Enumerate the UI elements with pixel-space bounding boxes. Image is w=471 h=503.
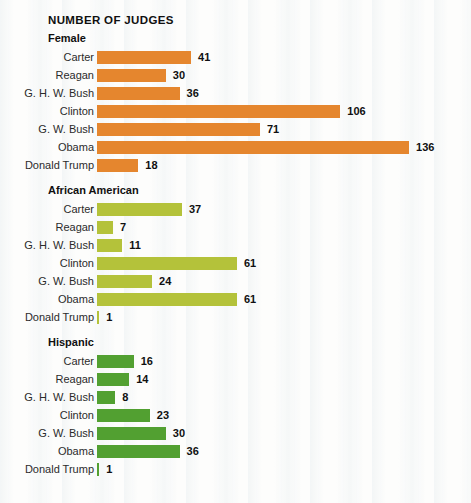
bar xyxy=(97,463,99,476)
bar-value-label: 71 xyxy=(267,123,279,136)
bar-row: Clinton23 xyxy=(0,406,471,424)
bar xyxy=(97,373,129,386)
bar-row: Clinton106 xyxy=(0,102,471,120)
bar-value-label: 61 xyxy=(244,293,256,306)
bar-area: 23 xyxy=(97,409,471,422)
bar-row: Reagan7 xyxy=(0,218,471,236)
bar-row-label: Clinton xyxy=(0,254,97,272)
bar-area: 18 xyxy=(97,159,471,172)
bar xyxy=(97,257,237,270)
bar-value-label: 30 xyxy=(173,427,185,440)
bar-row-label: G. H. W. Bush xyxy=(0,236,97,254)
bar-rows: Carter41Reagan30G. H. W. Bush36Clinton10… xyxy=(0,48,471,174)
bar-value-label: 16 xyxy=(141,355,153,368)
bar-row-label: G. H. W. Bush xyxy=(0,388,97,406)
bar-row-label: Carter xyxy=(0,352,97,370)
bar-row-label: Clinton xyxy=(0,406,97,424)
bar-area: 14 xyxy=(97,373,471,386)
bar-row: G. W. Bush24 xyxy=(0,272,471,290)
bar-row-label: Reagan xyxy=(0,218,97,236)
bar-value-label: 37 xyxy=(189,203,201,216)
bar xyxy=(97,159,138,172)
bar-row: Reagan14 xyxy=(0,370,471,388)
panel-title: Female xyxy=(48,32,471,44)
bar-value-label: 61 xyxy=(244,257,256,270)
bar-value-label: 36 xyxy=(187,87,199,100)
bar xyxy=(97,293,237,306)
bar-area: 8 xyxy=(97,391,471,404)
bar-row-label: G. W. Bush xyxy=(0,272,97,290)
bar xyxy=(97,87,180,100)
bar xyxy=(97,141,409,154)
chart-panels: FemaleCarter41Reagan30G. H. W. Bush36Cli… xyxy=(0,32,471,478)
bar xyxy=(97,427,166,440)
bar-value-label: 8 xyxy=(122,391,128,404)
bar xyxy=(97,391,115,404)
bar-area: 24 xyxy=(97,275,471,288)
bar-row-label: Obama xyxy=(0,138,97,156)
bar-area: 106 xyxy=(97,105,471,118)
panel-title: African American xyxy=(48,184,471,196)
bar-row-label: Reagan xyxy=(0,66,97,84)
bar-row-label: Donald Trump xyxy=(0,308,97,326)
bar-row: Obama61 xyxy=(0,290,471,308)
bar-row-label: Donald Trump xyxy=(0,460,97,478)
bar-value-label: 11 xyxy=(129,239,141,252)
bar xyxy=(97,409,150,422)
chart-panel-african-american: African AmericanCarter37Reagan7G. H. W. … xyxy=(0,184,471,326)
bar-value-label: 1 xyxy=(106,311,112,324)
number-of-judges-chart: NUMBER OF JUDGES FemaleCarter41Reagan30G… xyxy=(0,0,471,478)
bar-row: Carter41 xyxy=(0,48,471,66)
bar-row: Donald Trump18 xyxy=(0,156,471,174)
bar-value-label: 1 xyxy=(106,463,112,476)
bar-area: 136 xyxy=(97,141,471,154)
panel-title: Hispanic xyxy=(48,336,471,348)
bar-value-label: 18 xyxy=(145,159,157,172)
bar-row: Obama136 xyxy=(0,138,471,156)
bar-area: 11 xyxy=(97,239,471,252)
bar-area: 7 xyxy=(97,221,471,234)
bar-row: Reagan30 xyxy=(0,66,471,84)
bar-row-label: Carter xyxy=(0,48,97,66)
bar-value-label: 23 xyxy=(157,409,169,422)
bar-value-label: 7 xyxy=(120,221,126,234)
bar-row-label: Reagan xyxy=(0,370,97,388)
bar-area: 61 xyxy=(97,257,471,270)
bar-row: Donald Trump1 xyxy=(0,308,471,326)
bar xyxy=(97,51,191,64)
bar xyxy=(97,123,260,136)
bar-value-label: 36 xyxy=(187,445,199,458)
bar-area: 1 xyxy=(97,463,471,476)
bar-row: Obama36 xyxy=(0,442,471,460)
bar-row: G. W. Bush71 xyxy=(0,120,471,138)
bar-row-label: G. H. W. Bush xyxy=(0,84,97,102)
bar-area: 30 xyxy=(97,427,471,440)
bar-area: 41 xyxy=(97,51,471,64)
bar-value-label: 41 xyxy=(198,51,210,64)
bar-area: 71 xyxy=(97,123,471,136)
bar-area: 1 xyxy=(97,311,471,324)
bar xyxy=(97,221,113,234)
chart-panel-female: FemaleCarter41Reagan30G. H. W. Bush36Cli… xyxy=(0,32,471,174)
bar-area: 37 xyxy=(97,203,471,216)
bar-row: G. H. W. Bush36 xyxy=(0,84,471,102)
bar-row: G. H. W. Bush11 xyxy=(0,236,471,254)
bar-area: 16 xyxy=(97,355,471,368)
chart-title: NUMBER OF JUDGES xyxy=(48,14,471,26)
bar xyxy=(97,275,152,288)
bar xyxy=(97,105,340,118)
bar-row: Carter37 xyxy=(0,200,471,218)
bar xyxy=(97,311,99,324)
bar-row-label: Donald Trump xyxy=(0,156,97,174)
bar-area: 61 xyxy=(97,293,471,306)
bar-area: 36 xyxy=(97,445,471,458)
bar xyxy=(97,239,122,252)
bar-value-label: 30 xyxy=(173,69,185,82)
bar-row: G. H. W. Bush8 xyxy=(0,388,471,406)
bar-row: Carter16 xyxy=(0,352,471,370)
bar-row-label: Clinton xyxy=(0,102,97,120)
chart-panel-hispanic: HispanicCarter16Reagan14G. H. W. Bush8Cl… xyxy=(0,336,471,478)
bar-row-label: G. W. Bush xyxy=(0,424,97,442)
bar-value-label: 136 xyxy=(416,141,434,154)
bar-rows: Carter37Reagan7G. H. W. Bush11Clinton61G… xyxy=(0,200,471,326)
